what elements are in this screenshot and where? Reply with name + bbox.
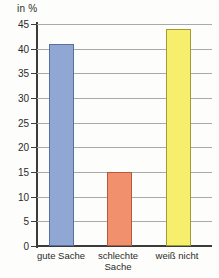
y-tick-label-5: 5 xyxy=(23,216,29,227)
y-tick-label-15: 15 xyxy=(18,167,29,178)
y-tick-label-30: 30 xyxy=(18,93,29,104)
y-tick-label-35: 35 xyxy=(18,68,29,79)
y-tick-mark-35 xyxy=(31,73,36,74)
bar-2 xyxy=(166,29,191,246)
y-tick-label-0: 0 xyxy=(23,241,29,252)
y-tick-mark-25 xyxy=(31,123,36,124)
x-axis-label-schlechte-sache: schlechte Sache xyxy=(88,250,148,272)
y-tick-mark-30 xyxy=(31,98,36,99)
bar-chart: in % 454035302520151050 gute Sache schle… xyxy=(0,0,219,278)
y-tick-mark-45 xyxy=(31,24,36,25)
y-tick-label-45: 45 xyxy=(18,19,29,30)
y-tick-label-10: 10 xyxy=(18,191,29,202)
y-tick-label-20: 20 xyxy=(18,142,29,153)
x-axis-label-weiss-nicht: weiß nicht xyxy=(146,250,208,261)
plot-area: 454035302520151050 xyxy=(37,24,212,246)
x-axis-label-gute-sache: gute Sache xyxy=(31,250,91,261)
y-tick-label-25: 25 xyxy=(18,117,29,128)
y-axis-unit-label: in % xyxy=(17,3,37,14)
y-tick-mark-5 xyxy=(31,221,36,222)
bar-0 xyxy=(49,44,74,246)
y-tick-mark-15 xyxy=(31,172,36,173)
bar-1 xyxy=(107,172,132,246)
y-tick-mark-20 xyxy=(31,147,36,148)
y-tick-mark-0 xyxy=(31,246,36,247)
y-tick-label-40: 40 xyxy=(18,43,29,54)
gridline-45 xyxy=(37,24,212,25)
y-tick-mark-40 xyxy=(31,49,36,50)
y-tick-mark-10 xyxy=(31,197,36,198)
